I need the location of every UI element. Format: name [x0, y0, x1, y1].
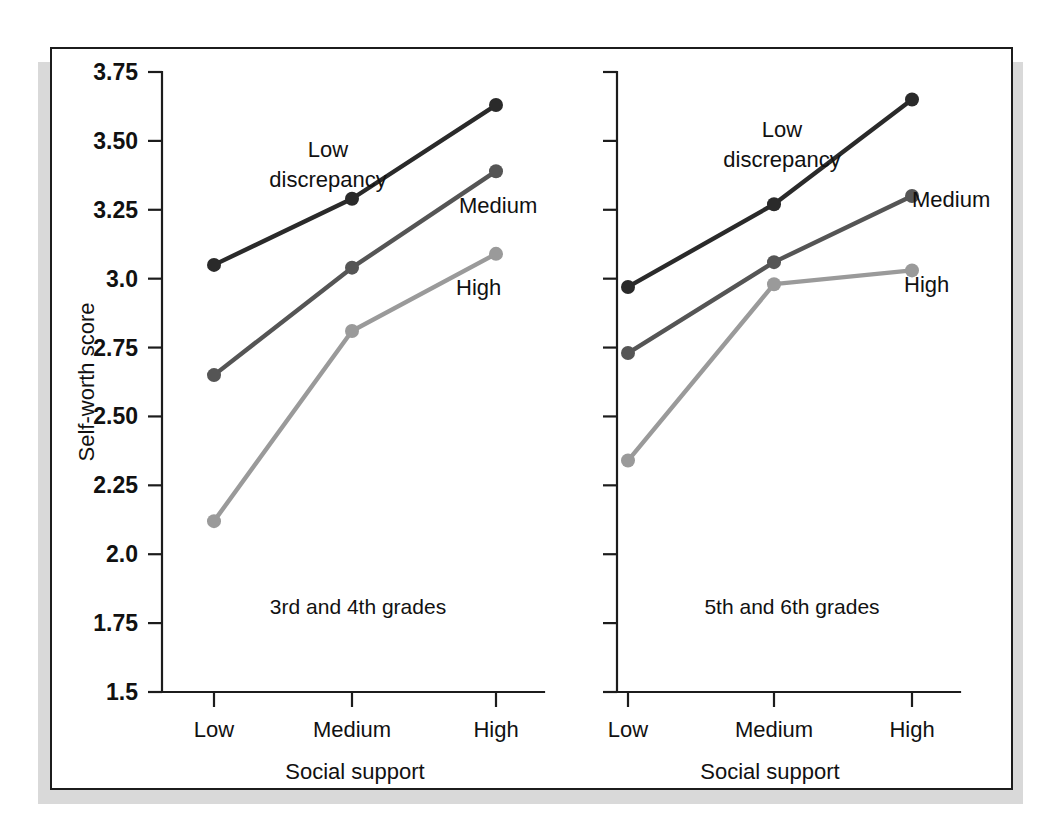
- panel-caption: 3rd and 4th grades: [270, 595, 446, 618]
- y-tick-label: 1.5: [106, 679, 138, 705]
- y-tick-label: 3.75: [93, 59, 138, 85]
- y-tick-label: 2.25: [93, 472, 138, 498]
- y-tick-label: 3.50: [93, 128, 138, 154]
- data-point: [621, 454, 635, 468]
- data-point: [489, 164, 503, 178]
- data-point: [767, 197, 781, 211]
- x-tick-label: Low: [608, 717, 648, 742]
- figure-frame: 3.753.503.253.02.752.502.252.01.751.5Low…: [50, 47, 1013, 790]
- data-point: [207, 514, 221, 528]
- data-point: [345, 261, 359, 275]
- data-point: [345, 192, 359, 206]
- y-tick-label: 3.0: [106, 266, 138, 292]
- chart-panel-2: LowMediumHighSocial supportLowdiscrepanc…: [603, 72, 990, 784]
- data-point: [489, 247, 503, 261]
- series-label-high: High: [904, 272, 949, 297]
- y-tick-label: 2.0: [106, 541, 138, 567]
- x-tick-label: High: [473, 717, 518, 742]
- y-axis-title: Self-worth score: [74, 303, 99, 462]
- series-label-medium: Medium: [459, 193, 537, 218]
- data-point: [905, 93, 919, 107]
- chart-svg: 3.753.503.253.02.752.502.252.01.751.5Low…: [52, 49, 1011, 788]
- data-point: [489, 98, 503, 112]
- chart-panel-1: 3.753.503.253.02.752.502.252.01.751.5Low…: [74, 59, 544, 784]
- series-line: [214, 254, 496, 521]
- data-point: [621, 346, 635, 360]
- data-point: [767, 277, 781, 291]
- series-label-low-discrepancy: Low: [762, 117, 802, 142]
- figure-page: 3.753.503.253.02.752.502.252.01.751.5Low…: [0, 0, 1050, 835]
- data-point: [767, 255, 781, 269]
- y-tick-label: 2.75: [93, 335, 138, 361]
- data-point: [207, 258, 221, 272]
- y-tick-label: 2.50: [93, 403, 138, 429]
- y-tick-label: 3.25: [93, 197, 138, 223]
- series-label-low-discrepancy: Low: [308, 137, 348, 162]
- series-label-low-discrepancy-line2: discrepancy: [723, 147, 840, 172]
- y-tick-label: 1.75: [93, 610, 138, 636]
- series-label-high: High: [456, 275, 501, 300]
- series-label-low-discrepancy-line2: discrepancy: [269, 167, 386, 192]
- x-axis-title: Social support: [285, 759, 424, 784]
- series-line: [628, 270, 912, 460]
- panel-caption: 5th and 6th grades: [704, 595, 879, 618]
- x-tick-label: High: [889, 717, 934, 742]
- x-tick-label: Medium: [313, 717, 391, 742]
- data-point: [207, 368, 221, 382]
- x-tick-label: Low: [194, 717, 234, 742]
- x-tick-label: Medium: [735, 717, 813, 742]
- data-point: [345, 324, 359, 338]
- x-axis-title: Social support: [700, 759, 839, 784]
- series-label-medium: Medium: [912, 187, 990, 212]
- data-point: [621, 280, 635, 294]
